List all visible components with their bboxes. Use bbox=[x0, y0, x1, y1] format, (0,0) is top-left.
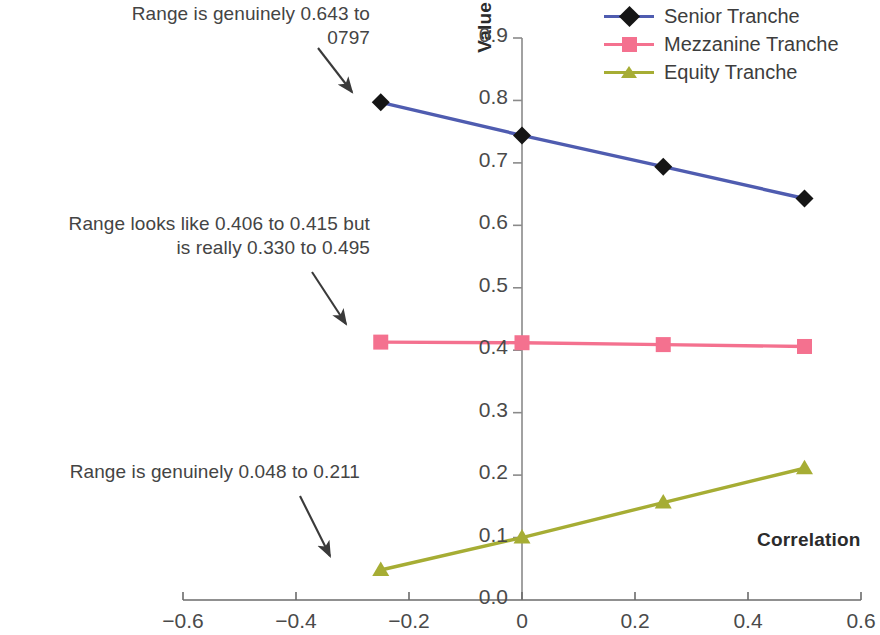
data-point-diamond bbox=[654, 158, 672, 176]
arrow-senior bbox=[318, 48, 352, 92]
data-point-square bbox=[373, 335, 388, 350]
chart-container: Range is genuinely 0.643 to 0797 Range l… bbox=[0, 0, 880, 635]
arrow-equity bbox=[300, 496, 330, 556]
annotation-arrows bbox=[300, 48, 352, 556]
data-point-diamond bbox=[796, 189, 814, 207]
y-tick-label: 0.1 bbox=[444, 523, 508, 547]
y-tick-label: 0.7 bbox=[444, 148, 508, 172]
x-tick-label: −0.2 bbox=[364, 609, 454, 633]
y-tick-label: 0.2 bbox=[444, 460, 508, 484]
data-series-layer bbox=[372, 93, 814, 576]
data-point-square bbox=[515, 335, 530, 350]
plot-area bbox=[0, 0, 880, 635]
x-tick-label: −0.4 bbox=[251, 609, 341, 633]
x-tick-label: 0 bbox=[477, 609, 567, 633]
series-senior-tranche bbox=[372, 93, 814, 207]
data-point-square bbox=[656, 337, 671, 352]
data-point-diamond bbox=[372, 93, 390, 111]
data-point-triangle bbox=[796, 460, 813, 475]
y-tick-label: 0.8 bbox=[444, 85, 508, 109]
series-mezzanine-tranche bbox=[373, 335, 812, 354]
x-tick-label: 0.2 bbox=[590, 609, 680, 633]
y-tick-label: 0.6 bbox=[444, 210, 508, 234]
series-equity-tranche bbox=[372, 460, 813, 576]
data-point-square bbox=[797, 339, 812, 354]
axis-lines bbox=[183, 38, 861, 600]
y-tick-label: 0.0 bbox=[444, 585, 508, 609]
y-tick-label: 0.4 bbox=[444, 335, 508, 359]
arrow-mezzanine bbox=[312, 272, 346, 324]
x-tick-label: 0.4 bbox=[703, 609, 793, 633]
y-tick-label: 0.5 bbox=[444, 273, 508, 297]
x-tick-label: −0.6 bbox=[138, 609, 228, 633]
y-tick-label: 0.9 bbox=[444, 23, 508, 47]
x-tick-label: 0.6 bbox=[816, 609, 880, 633]
data-point-diamond bbox=[513, 126, 531, 144]
y-tick-label: 0.3 bbox=[444, 398, 508, 422]
